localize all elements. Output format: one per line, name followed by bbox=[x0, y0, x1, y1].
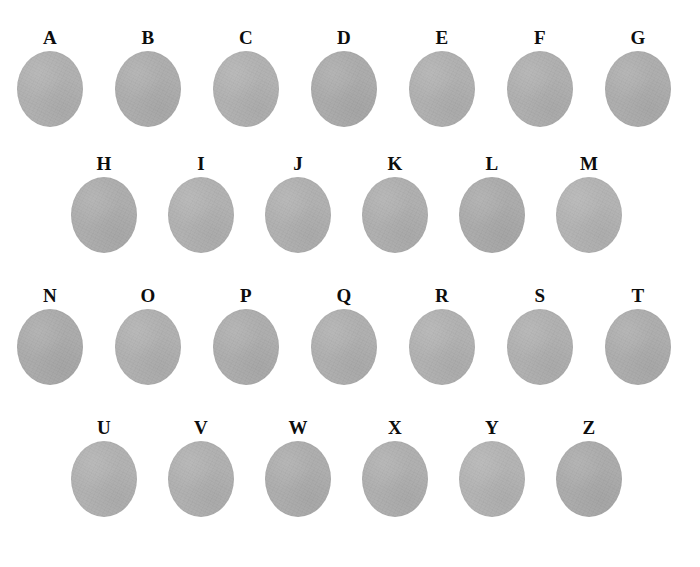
specimen-disc-g[interactable] bbox=[605, 51, 671, 127]
specimen-disc-r[interactable] bbox=[409, 309, 475, 385]
specimen-cell-q[interactable]: Q bbox=[299, 286, 389, 386]
specimen-label-s: S bbox=[495, 286, 585, 306]
specimen-disc-l[interactable] bbox=[459, 177, 525, 253]
specimen-label-x: X bbox=[350, 418, 440, 438]
specimen-disc-z[interactable] bbox=[556, 441, 622, 517]
specimen-label-i: I bbox=[156, 154, 246, 174]
specimen-cell-l[interactable]: L bbox=[447, 154, 537, 254]
specimen-label-u: U bbox=[59, 418, 149, 438]
specimen-label-c: C bbox=[201, 28, 291, 48]
specimen-label-p: P bbox=[201, 286, 291, 306]
specimen-cell-s[interactable]: S bbox=[495, 286, 585, 386]
specimen-disc-wrap-n bbox=[5, 306, 95, 386]
specimen-disc-v[interactable] bbox=[168, 441, 234, 517]
specimen-cell-f[interactable]: F bbox=[495, 28, 585, 128]
specimen-cell-b[interactable]: B bbox=[103, 28, 193, 128]
specimen-disc-wrap-e bbox=[397, 48, 487, 128]
specimen-label-n: N bbox=[5, 286, 95, 306]
specimen-cell-z[interactable]: Z bbox=[544, 418, 634, 518]
specimen-disc-x[interactable] bbox=[362, 441, 428, 517]
specimen-cell-h[interactable]: H bbox=[59, 154, 149, 254]
specimen-disc-wrap-i bbox=[156, 174, 246, 254]
specimen-cell-t[interactable]: T bbox=[593, 286, 683, 386]
specimen-label-l: L bbox=[447, 154, 537, 174]
specimen-label-m: M bbox=[544, 154, 634, 174]
specimen-cell-v[interactable]: V bbox=[156, 418, 246, 518]
specimen-cell-m[interactable]: M bbox=[544, 154, 634, 254]
specimen-disc-wrap-o bbox=[103, 306, 193, 386]
specimen-label-o: O bbox=[103, 286, 193, 306]
specimen-cell-p[interactable]: P bbox=[201, 286, 291, 386]
specimen-disc-n[interactable] bbox=[17, 309, 83, 385]
specimen-label-b: B bbox=[103, 28, 193, 48]
specimen-disc-wrap-m bbox=[544, 174, 634, 254]
specimen-disc-wrap-k bbox=[350, 174, 440, 254]
specimen-disc-d[interactable] bbox=[311, 51, 377, 127]
specimen-cell-u[interactable]: U bbox=[59, 418, 149, 518]
specimen-label-q: Q bbox=[299, 286, 389, 306]
specimen-label-e: E bbox=[397, 28, 487, 48]
specimen-disc-wrap-w bbox=[253, 438, 343, 518]
specimen-disc-wrap-a bbox=[5, 48, 95, 128]
specimen-label-y: Y bbox=[447, 418, 537, 438]
specimen-disc-wrap-r bbox=[397, 306, 487, 386]
specimen-label-v: V bbox=[156, 418, 246, 438]
specimen-cell-g[interactable]: G bbox=[593, 28, 683, 128]
specimen-cell-e[interactable]: E bbox=[397, 28, 487, 128]
specimen-disc-wrap-l bbox=[447, 174, 537, 254]
specimen-disc-wrap-s bbox=[495, 306, 585, 386]
specimen-cell-k[interactable]: K bbox=[350, 154, 440, 254]
specimen-disc-wrap-x bbox=[350, 438, 440, 518]
specimen-disc-wrap-p bbox=[201, 306, 291, 386]
specimen-disc-p[interactable] bbox=[213, 309, 279, 385]
specimen-cell-a[interactable]: A bbox=[5, 28, 95, 128]
specimen-disc-wrap-j bbox=[253, 174, 343, 254]
specimen-disc-e[interactable] bbox=[409, 51, 475, 127]
specimen-label-a: A bbox=[5, 28, 95, 48]
specimen-disc-wrap-y bbox=[447, 438, 537, 518]
specimen-disc-f[interactable] bbox=[507, 51, 573, 127]
specimen-disc-wrap-d bbox=[299, 48, 389, 128]
specimen-cell-i[interactable]: I bbox=[156, 154, 246, 254]
specimen-disc-j[interactable] bbox=[265, 177, 331, 253]
specimen-disc-y[interactable] bbox=[459, 441, 525, 517]
specimen-disc-t[interactable] bbox=[605, 309, 671, 385]
specimen-disc-u[interactable] bbox=[71, 441, 137, 517]
specimen-label-d: D bbox=[299, 28, 389, 48]
specimen-disc-a[interactable] bbox=[17, 51, 83, 127]
specimen-disc-wrap-u bbox=[59, 438, 149, 518]
specimen-cell-x[interactable]: X bbox=[350, 418, 440, 518]
specimen-disc-q[interactable] bbox=[311, 309, 377, 385]
specimen-label-t: T bbox=[593, 286, 683, 306]
specimen-label-f: F bbox=[495, 28, 585, 48]
specimen-panel-figure: ABCDEFGHIJKLMNOPQRSTUVWXYZ bbox=[0, 0, 700, 567]
specimen-cell-r[interactable]: R bbox=[397, 286, 487, 386]
specimen-disc-s[interactable] bbox=[507, 309, 573, 385]
specimen-disc-h[interactable] bbox=[71, 177, 137, 253]
specimen-disc-wrap-c bbox=[201, 48, 291, 128]
specimen-label-w: W bbox=[253, 418, 343, 438]
specimen-disc-w[interactable] bbox=[265, 441, 331, 517]
specimen-cell-d[interactable]: D bbox=[299, 28, 389, 128]
specimen-cell-w[interactable]: W bbox=[253, 418, 343, 518]
specimen-cell-o[interactable]: O bbox=[103, 286, 193, 386]
specimen-cell-j[interactable]: J bbox=[253, 154, 343, 254]
specimen-disc-wrap-h bbox=[59, 174, 149, 254]
specimen-disc-m[interactable] bbox=[556, 177, 622, 253]
specimen-disc-c[interactable] bbox=[213, 51, 279, 127]
specimen-disc-k[interactable] bbox=[362, 177, 428, 253]
specimen-label-k: K bbox=[350, 154, 440, 174]
specimen-cell-c[interactable]: C bbox=[201, 28, 291, 128]
specimen-disc-b[interactable] bbox=[115, 51, 181, 127]
specimen-label-z: Z bbox=[544, 418, 634, 438]
specimen-label-h: H bbox=[59, 154, 149, 174]
specimen-disc-o[interactable] bbox=[115, 309, 181, 385]
specimen-disc-wrap-v bbox=[156, 438, 246, 518]
specimen-disc-wrap-t bbox=[593, 306, 683, 386]
specimen-cell-y[interactable]: Y bbox=[447, 418, 537, 518]
specimen-label-r: R bbox=[397, 286, 487, 306]
specimen-disc-wrap-b bbox=[103, 48, 193, 128]
specimen-disc-i[interactable] bbox=[168, 177, 234, 253]
specimen-label-j: J bbox=[253, 154, 343, 174]
specimen-cell-n[interactable]: N bbox=[5, 286, 95, 386]
